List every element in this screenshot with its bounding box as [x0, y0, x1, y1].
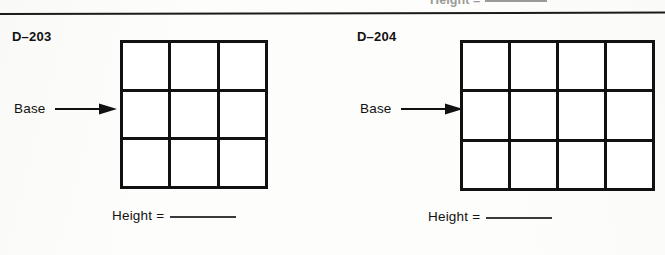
grid-cell: [511, 142, 556, 188]
base-annotation-d-204: Base: [360, 101, 463, 116]
grid-cell: [607, 43, 652, 89]
base-label-d-203: Base: [14, 101, 46, 116]
rectangle-grid-d-203: [120, 40, 268, 189]
height-label-d-203: Height =: [112, 208, 164, 223]
base-annotation-d-203: Base: [14, 101, 117, 116]
grid-cell: [123, 140, 168, 186]
height-label-d-204: Height =: [428, 209, 480, 224]
exercise-code-d-203: D–203: [12, 29, 51, 44]
grid-cell: [220, 92, 265, 138]
grid-cell: [463, 43, 508, 89]
grid-cell: [171, 140, 216, 186]
grid-cell: [559, 142, 604, 188]
grid-cell: [171, 92, 216, 138]
rectangle-grid-d-204: [460, 40, 655, 191]
grid-cell: [123, 92, 168, 138]
height-prompt-d-204: Height =: [428, 209, 552, 224]
height-prompt-d-203: Height =: [112, 208, 236, 223]
grid-cell: [559, 92, 604, 138]
grid-cell: [123, 43, 168, 89]
arrow-right-icon: [401, 102, 463, 116]
arrow-right-icon: [55, 102, 117, 116]
height-answer-blank-d-204[interactable]: [486, 217, 552, 219]
exercise-d-203: D–203 Base Height =: [0, 0, 340, 255]
grid-cell: [511, 92, 556, 138]
grid-cell: [463, 92, 508, 138]
grid-cell: [220, 140, 265, 186]
grid-cell: [511, 43, 556, 89]
worksheet-page: Height = D–203 Base Height =: [0, 0, 665, 255]
exercise-code-d-204: D–204: [357, 29, 396, 44]
exercise-d-204: D–204 Base Height =: [340, 0, 665, 255]
grid-cell: [607, 142, 652, 188]
grid-cell: [171, 43, 216, 89]
base-label-d-204: Base: [360, 101, 392, 116]
grid-cell: [559, 43, 604, 89]
grid-cell: [463, 142, 508, 188]
grid-cell: [607, 92, 652, 138]
grid-cell: [220, 43, 265, 89]
height-answer-blank-d-203[interactable]: [170, 216, 236, 218]
